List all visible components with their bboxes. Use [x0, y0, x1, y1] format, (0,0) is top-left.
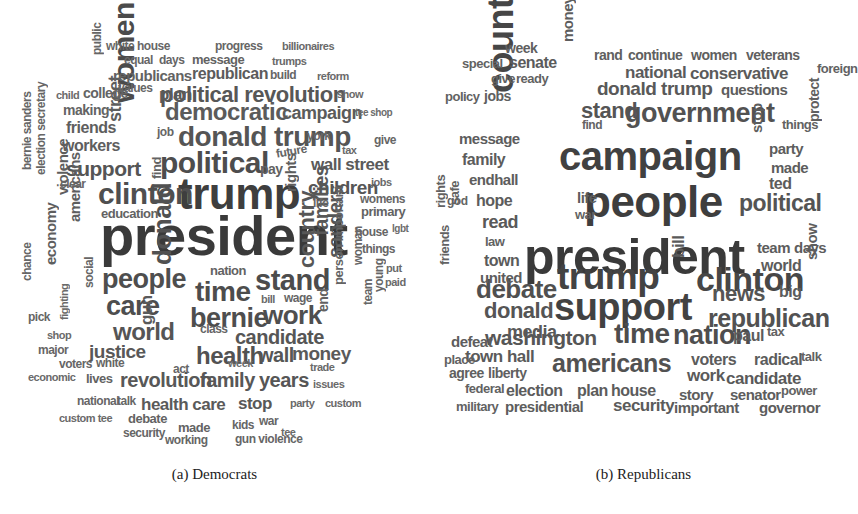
cloud-word: message [192, 53, 244, 66]
cloud-word: plan [577, 383, 608, 399]
cloud-word: major [38, 344, 68, 356]
cloud-word: power [781, 384, 817, 397]
cloud-word: week [228, 358, 253, 369]
cloud-word: election secretary [35, 82, 47, 175]
cloud-word: end [316, 289, 330, 312]
cloud-word: bill [261, 294, 275, 305]
cloud-word: work [687, 367, 725, 384]
cloud-word: special [462, 57, 503, 70]
cloud-word: paul [733, 328, 764, 344]
cloud-word: lgbt [392, 224, 408, 234]
cloud-word: message [459, 131, 520, 146]
cloud-word: bernie sanders [21, 92, 33, 170]
cloud-word: equal [124, 54, 153, 66]
caption-republicans: (b) Republicans [429, 466, 858, 496]
cloud-word: paid [385, 277, 406, 288]
cloud-word: stop [238, 395, 272, 412]
cloud-word: election [506, 383, 562, 399]
cloud-word: town hall [465, 348, 534, 365]
cloud-word: trumps [272, 56, 306, 67]
cloud-word: rights [434, 175, 447, 208]
cloud-word: republican [192, 66, 268, 82]
cloud-word: women [691, 48, 737, 62]
cloud-word: shop [47, 330, 71, 341]
cloud-word: foreign [817, 62, 858, 75]
cloud-word: show [337, 89, 363, 100]
cloud-word: people [584, 180, 723, 224]
cloud-word: federal [465, 382, 504, 395]
cloud-word: things [362, 243, 395, 255]
cloud-word: law [485, 235, 504, 248]
cloud-word: rand [594, 48, 622, 62]
cloud-word: ted [769, 176, 792, 192]
cloud-word: donald [149, 183, 175, 265]
cloud-word: protect [807, 78, 821, 122]
cloud-word: war [259, 415, 278, 427]
wordcloud-figure: presidenttrumpdonald trumppoliticalclint… [0, 0, 858, 514]
cloud-word: tax [767, 325, 784, 338]
cloud-word: bill [670, 235, 687, 258]
cloud-word: custom [325, 398, 361, 409]
cloud-word: white house [106, 40, 170, 52]
cloud-word: donald [484, 300, 553, 322]
cloud-word: work [263, 302, 322, 328]
cloud-word: endhall [469, 172, 518, 187]
cloud-word: media [507, 323, 557, 341]
cloud-word: liberty [488, 366, 527, 380]
cloud-word: person important [332, 186, 345, 285]
cloud-word: wall [258, 345, 294, 365]
cloud-word: wage [284, 292, 312, 304]
cloud-word: woman [352, 226, 364, 265]
cloud-word: custom tee [59, 413, 112, 424]
cloud-word: act [173, 363, 189, 375]
cloud-word: child [56, 90, 79, 101]
cloud-word: friends [438, 225, 451, 265]
cloud-word: security [123, 427, 165, 439]
cloud-word: campaign [282, 104, 362, 122]
cloud-word: party [769, 141, 803, 156]
cloud-word: family [200, 370, 255, 390]
cloud-word: put [386, 263, 402, 274]
cloud-word: fighting [59, 284, 70, 320]
cloud-word: wall street [311, 156, 389, 173]
cloud-word: big [779, 284, 802, 300]
cloud-word: life [313, 197, 328, 209]
cloud-word: years [259, 370, 309, 390]
cloud-word: safe [448, 181, 461, 205]
cloud-word: days [159, 54, 184, 66]
cloud-word: clear [60, 178, 86, 190]
cloud-word: economic [28, 372, 75, 383]
cloud-word: campaign [559, 136, 742, 176]
cloud-word: tax [342, 145, 356, 156]
cloud-word: rights [283, 153, 298, 192]
cloud-word: stop [749, 103, 764, 133]
cloud-word: economy [43, 203, 58, 265]
cloud-word: united [480, 270, 522, 285]
cloud-word: jobs [371, 177, 392, 188]
cloud-word: give [491, 72, 515, 85]
cloud-word: ready [516, 72, 548, 85]
wordcloud-republicans: presidentpeoplecampaignsupporttrumpclint… [429, 0, 858, 462]
cloud-word: security [613, 397, 674, 414]
cloud-word: lives [86, 372, 112, 385]
cloud-word: family [462, 152, 505, 168]
cloud-word: build [270, 69, 296, 81]
cloud-word: world [761, 258, 801, 274]
cloud-word: week [505, 41, 537, 55]
cloud-word: nation [210, 264, 246, 277]
cloud-word: jobs [484, 89, 511, 103]
cloud-word: people [102, 266, 186, 293]
cloud-word: primary [361, 205, 405, 218]
cloud-word: gun violence [235, 433, 302, 445]
cloud-word: public [91, 23, 103, 55]
cloud-word: veterans [746, 48, 800, 62]
cloud-word: friends [66, 120, 116, 136]
cloud-word: time [614, 320, 670, 348]
cloud-word: life [577, 190, 597, 205]
cloud-word: money [560, 0, 575, 42]
cloud-word: education [101, 207, 158, 220]
cloud-word: hope [476, 193, 512, 209]
cloud-word: place [444, 353, 475, 366]
cloud-word: read [482, 213, 518, 231]
cloud-word: national [77, 395, 119, 407]
